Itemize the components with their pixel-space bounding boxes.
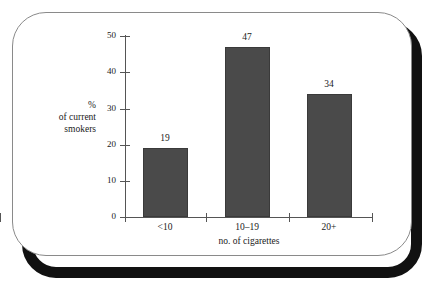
y-tick-label-0: 0 [96,212,116,221]
y-axis-title-line-1: % [20,99,96,111]
x-category-label-20plus: 20+ [299,222,359,233]
x-tick-start [125,213,126,222]
y-tick-label-40-wrap: 40 [96,67,116,76]
x-tick-end [372,213,373,222]
y-tick-label-50: 50 [96,31,116,40]
y-axis-title: % of current smokers [20,99,96,135]
x-tick-boundary-1 [206,213,207,222]
y-tick-label-0-wrap: 0 [96,212,116,221]
x-category-label-lt10: <10 [135,222,195,233]
y-axis-title-line-2: of current [20,111,96,123]
bar-20plus [307,94,352,217]
y-tick-50 [120,36,130,37]
x-tick-1 [0,213,1,222]
x-axis-line [125,217,373,218]
y-tick-label-30: 30 [96,104,116,113]
bar-value-lt10: 19 [135,133,195,143]
bar-value-20plus: 34 [299,79,359,89]
y-tick-10 [120,181,130,182]
y-tick-30 [120,109,130,110]
y-tick-label-10: 10 [96,176,116,185]
y-tick-label-20: 20 [96,140,116,149]
bar-10-19 [225,47,270,217]
bar-value-10-19: 47 [217,32,277,42]
y-tick-label-30-wrap: 30 [96,104,116,113]
y-axis-line [125,35,126,218]
figure-root: 0 10 20 30 40 50 % of current smokers [0,0,444,296]
y-tick-label-20-wrap: 20 [96,140,116,149]
x-axis-title: no. of cigarettes [125,236,373,247]
y-tick-20 [120,145,130,146]
bar-lt10 [143,148,188,217]
y-tick-label-50-wrap: 50 [96,31,116,40]
x-tick-boundary-2 [289,213,290,222]
x-category-label-10-19: 10–19 [217,222,277,233]
y-tick-40 [120,72,130,73]
y-tick-label-10-wrap: 10 [96,176,116,185]
y-axis-title-line-3: smokers [20,123,96,135]
plot-area: 0 10 20 30 40 50 % of current smokers [0,0,444,296]
y-tick-label-40: 40 [96,67,116,76]
